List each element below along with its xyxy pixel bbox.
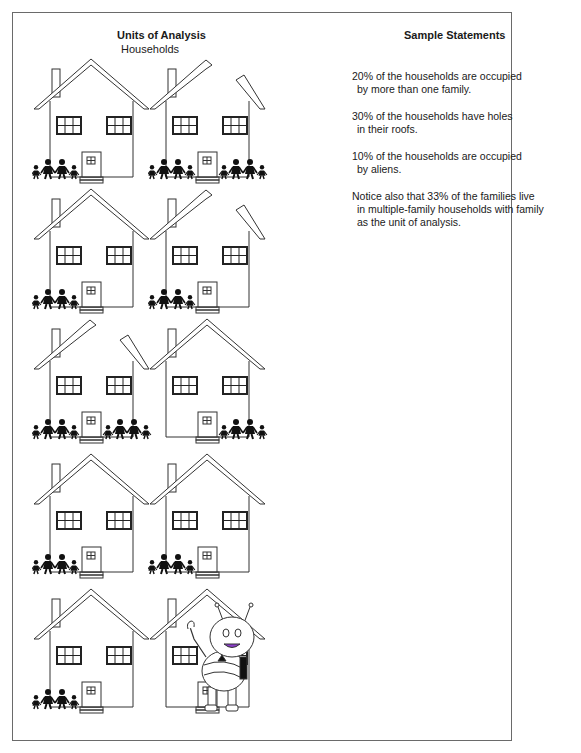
person-icon <box>55 289 69 309</box>
person-icon <box>157 159 171 179</box>
statement-roof-holes: 30% of the households have holes in thei… <box>352 110 552 136</box>
window-icon <box>107 247 131 264</box>
statement-aliens: 10% of the households are occupied by al… <box>352 150 552 176</box>
person-icon <box>41 554 55 574</box>
door-icon <box>80 682 103 713</box>
person-icon <box>32 295 41 309</box>
person-icon <box>171 289 185 309</box>
household-r2c1 <box>32 187 150 315</box>
person-icon <box>229 419 243 439</box>
window-icon <box>57 117 81 134</box>
door-icon <box>80 412 103 443</box>
person-icon <box>157 554 171 574</box>
person-icon <box>171 554 185 574</box>
person-icon <box>41 689 55 709</box>
statements-list: 20% of the households are occupied by mo… <box>352 70 552 243</box>
household-r3c2 <box>148 317 266 445</box>
broken-roof-icon <box>34 320 96 369</box>
family-icon <box>219 419 267 439</box>
person-icon <box>32 695 41 709</box>
household-r1c2 <box>148 57 266 185</box>
window-icon <box>223 512 247 529</box>
household-r1c1 <box>32 57 150 185</box>
window-icon <box>223 247 247 264</box>
person-icon <box>157 289 171 309</box>
statement-families-note: Notice also that 33% of the families liv… <box>352 190 552 229</box>
window-icon <box>173 377 197 394</box>
family-icon <box>32 419 79 439</box>
window-icon <box>173 247 197 264</box>
person-icon <box>32 560 41 574</box>
person-icon <box>113 419 127 439</box>
broken-roof-icon <box>150 60 212 109</box>
door-icon <box>80 547 103 578</box>
person-icon <box>257 425 267 439</box>
family-icon <box>103 419 151 439</box>
household-r4c2 <box>148 452 266 580</box>
window-icon <box>107 512 131 529</box>
door-icon <box>196 152 219 183</box>
person-icon <box>32 425 41 439</box>
window-icon <box>223 117 247 134</box>
person-icon <box>243 419 257 439</box>
family-icon <box>32 554 79 574</box>
person-icon <box>55 159 69 179</box>
family-icon <box>148 289 195 309</box>
person-icon <box>55 419 69 439</box>
person-icon <box>148 165 157 179</box>
family-icon <box>32 689 79 709</box>
person-icon <box>243 159 257 179</box>
window-icon <box>57 512 81 529</box>
family-icon <box>148 554 195 574</box>
person-icon <box>32 165 41 179</box>
family-icon <box>32 159 79 179</box>
door-icon <box>196 412 219 443</box>
window-icon <box>57 647 81 664</box>
window-icon <box>107 647 131 664</box>
sample-statements-heading: Sample Statements <box>404 29 505 41</box>
window-icon <box>107 117 131 134</box>
person-icon <box>41 159 55 179</box>
window-icon <box>107 377 131 394</box>
door-icon <box>80 152 103 183</box>
door-icon <box>196 547 219 578</box>
person-icon <box>55 689 69 709</box>
person-icon <box>41 419 55 439</box>
person-icon <box>257 165 267 179</box>
person-icon <box>171 159 185 179</box>
households-subheading: Households <box>121 43 179 55</box>
window-icon <box>173 647 197 664</box>
household-r5c1 <box>32 587 150 715</box>
person-icon <box>127 419 141 439</box>
window-icon <box>57 247 81 264</box>
window-icon <box>57 377 81 394</box>
person-icon <box>55 554 69 574</box>
household-r5c2 <box>148 587 266 715</box>
family-icon <box>219 159 267 179</box>
person-icon <box>148 560 157 574</box>
door-icon <box>80 282 103 313</box>
family-icon <box>32 289 79 309</box>
window-icon <box>223 377 247 394</box>
door-icon <box>196 282 219 313</box>
window-icon <box>173 512 197 529</box>
person-icon <box>148 295 157 309</box>
person-icon <box>41 289 55 309</box>
household-r3c1 <box>32 317 150 445</box>
statement-multi-family: 20% of the households are occupied by mo… <box>352 70 552 96</box>
household-r2c2 <box>148 187 266 315</box>
person-icon <box>229 159 243 179</box>
window-icon <box>173 117 197 134</box>
household-r4c1 <box>32 452 150 580</box>
units-of-analysis-heading: Units of Analysis <box>117 29 206 41</box>
broken-roof-icon <box>150 190 212 239</box>
family-icon <box>148 159 195 179</box>
